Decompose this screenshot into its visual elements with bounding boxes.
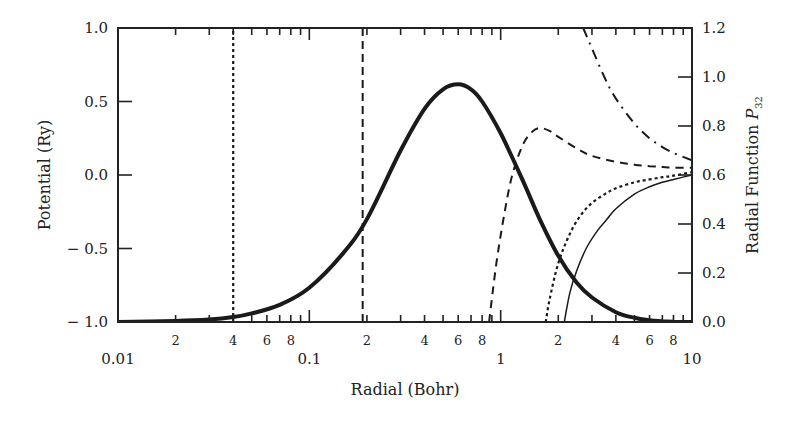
y-left-tick-label: − 1.0 bbox=[67, 313, 108, 331]
x-minor-tick-label: 2 bbox=[363, 333, 371, 348]
y-right-tick-label: 0.4 bbox=[702, 215, 726, 233]
x-major-tick-label: 10 bbox=[682, 350, 701, 368]
x-major-tick-label: 1 bbox=[496, 350, 506, 368]
y-left-tick-label: 0.0 bbox=[84, 166, 108, 184]
chart: 2468246824680.010.11101.00.50.0− 0.5− 1.… bbox=[0, 0, 793, 425]
x-minor-tick-label: 4 bbox=[420, 333, 428, 348]
y-left-tick-label: − 0.5 bbox=[67, 240, 108, 258]
x-minor-tick-label: 6 bbox=[263, 333, 271, 348]
y-right-tick-label: 1.2 bbox=[702, 19, 726, 37]
series-dashed bbox=[489, 128, 692, 322]
y-right-tick-label: 0.6 bbox=[702, 166, 726, 184]
x-minor-tick-label: 2 bbox=[171, 333, 179, 348]
x-minor-tick-label: 8 bbox=[287, 333, 295, 348]
x-minor-tick-label: 6 bbox=[645, 333, 653, 348]
y-right-axis-title: Radial Function P32 bbox=[743, 96, 764, 254]
curves-layer bbox=[118, 28, 692, 322]
y-right-tick-label: 0.2 bbox=[702, 264, 726, 282]
x-minor-tick-label: 2 bbox=[554, 333, 562, 348]
y-left-tick-label: 0.5 bbox=[84, 93, 108, 111]
x-major-tick-label: 0.01 bbox=[101, 350, 134, 368]
y-right-title-main: Radial Function bbox=[743, 120, 762, 254]
y-right-tick-label: 0.0 bbox=[702, 313, 726, 331]
plot-frame bbox=[118, 28, 692, 322]
y-right-tick-label: 1.0 bbox=[702, 68, 726, 86]
x-minor-tick-label: 4 bbox=[229, 333, 237, 348]
x-minor-tick-label: 8 bbox=[478, 333, 486, 348]
series-thick-solid bbox=[118, 84, 692, 322]
ticks-layer bbox=[118, 28, 692, 322]
y-left-axis-title: Potential (Ry) bbox=[35, 120, 54, 231]
y-right-tick-label: 0.8 bbox=[702, 117, 726, 135]
y-right-title-subscript: 32 bbox=[753, 96, 764, 109]
series-thin-solid bbox=[564, 175, 692, 322]
x-minor-tick-label: 8 bbox=[669, 333, 677, 348]
x-major-tick-label: 0.1 bbox=[297, 350, 321, 368]
y-left-tick-label: 1.0 bbox=[84, 19, 108, 37]
y-right-title-symbol: P bbox=[743, 109, 762, 121]
series-dash-dot bbox=[583, 28, 692, 160]
x-minor-tick-label: 6 bbox=[454, 333, 462, 348]
x-minor-tick-label: 4 bbox=[612, 333, 620, 348]
x-axis-title: Radial (Bohr) bbox=[351, 380, 460, 399]
